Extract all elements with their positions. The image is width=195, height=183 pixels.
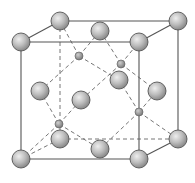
large-atom-corner-front-bottom-right	[130, 150, 148, 168]
large-atom-corner-back-top-left	[51, 12, 69, 30]
large-atoms-group	[12, 12, 187, 168]
small-atom-tetra-2	[117, 60, 125, 68]
large-atom-corner-front-top-left	[12, 33, 30, 51]
large-atom-face-top	[91, 22, 109, 40]
large-atom-face-back	[110, 71, 128, 89]
small-atom-tetra-3	[55, 120, 63, 128]
large-atom-face-left	[31, 82, 49, 100]
large-atom-corner-front-bottom-left	[12, 150, 30, 168]
small-atom-tetra-1	[75, 52, 83, 60]
small-atoms-group	[55, 52, 143, 128]
small-atom-tetra-4	[135, 108, 143, 116]
large-atom-face-bottom	[91, 140, 109, 158]
large-atom-corner-back-bottom-left	[51, 130, 69, 148]
large-atom-face-right	[148, 82, 166, 100]
large-atom-face-front	[72, 91, 90, 109]
large-atom-corner-back-top-right	[169, 12, 187, 30]
crystal-lattice-diagram	[0, 0, 195, 183]
large-atom-corner-back-bottom-right	[169, 130, 187, 148]
large-atom-corner-front-top-right	[130, 33, 148, 51]
